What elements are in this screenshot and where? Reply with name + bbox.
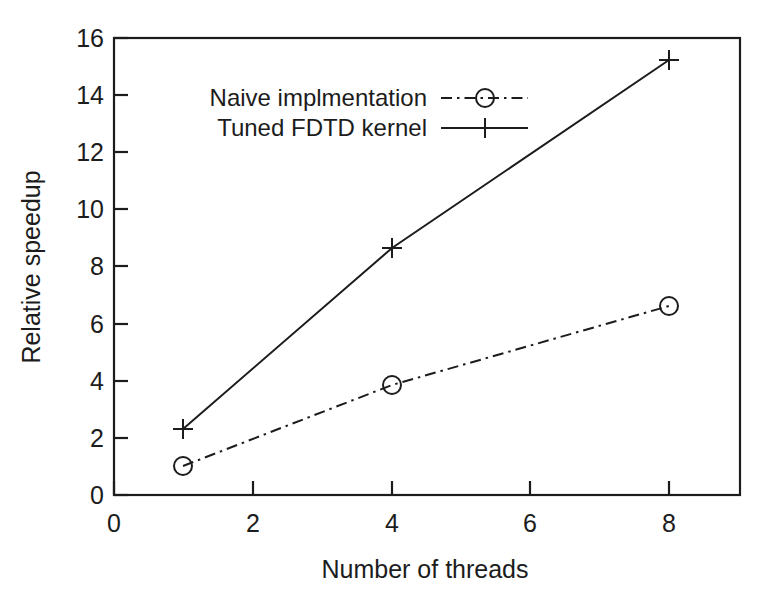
line-chart: 0 2 4 6 8 10 12 14 16 0 2 4 6 8 Number o… xyxy=(0,0,777,595)
y-tick-label: 4 xyxy=(90,367,104,395)
circle-marker xyxy=(660,297,678,315)
plot-frame xyxy=(114,38,740,495)
x-axis-tick-labels: 0 2 4 6 8 xyxy=(107,509,676,537)
y-tick-label: 6 xyxy=(90,310,104,338)
y-axis-title: Relative speedup xyxy=(17,170,45,363)
y-tick-label: 0 xyxy=(90,481,104,509)
y-tick-label: 14 xyxy=(76,81,104,109)
x-tick-label: 2 xyxy=(246,509,260,537)
y-tick-label: 2 xyxy=(90,424,104,452)
circle-marker xyxy=(383,376,401,394)
y-tick-label: 10 xyxy=(76,195,104,223)
chart-figure: 0 2 4 6 8 10 12 14 16 0 2 4 6 8 Number o… xyxy=(0,0,777,595)
x-tick-label: 4 xyxy=(385,509,399,537)
series-naive-implmentation xyxy=(174,297,678,475)
legend-sample-solid-plus xyxy=(441,118,528,138)
legend-label-tuned: Tuned FDTD kernel xyxy=(217,114,427,141)
legend-sample-dashdot-circle xyxy=(441,89,528,107)
y-tick-label: 16 xyxy=(76,24,104,52)
y-axis-tick-labels: 0 2 4 6 8 10 12 14 16 xyxy=(76,24,104,509)
y-axis-ticks xyxy=(114,38,128,495)
x-tick-label: 6 xyxy=(523,509,537,537)
series-line-dashdot xyxy=(183,306,669,466)
y-tick-label: 8 xyxy=(90,252,104,280)
chart-legend: Naive implmentation Tuned FDTD kernel xyxy=(210,84,528,141)
x-axis-ticks xyxy=(114,481,669,495)
plus-marker xyxy=(659,50,679,70)
x-axis-title: Number of threads xyxy=(321,555,528,583)
x-tick-label: 8 xyxy=(662,509,676,537)
x-tick-label: 0 xyxy=(107,509,121,537)
y-tick-label: 12 xyxy=(76,138,104,166)
legend-label-naive: Naive implmentation xyxy=(210,84,427,111)
